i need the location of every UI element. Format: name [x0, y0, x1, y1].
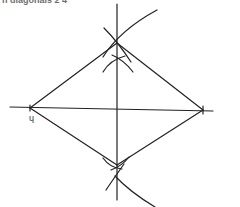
rhombus-construction-diagram	[0, 0, 240, 207]
rhombus-side-bottom-left	[30, 108, 117, 165]
rhombus-side-left-top	[30, 43, 117, 108]
bottom-arc-long	[115, 176, 155, 207]
top-small-arc-right	[112, 55, 133, 72]
rhombus-side-right-bottom	[117, 110, 203, 165]
top-small-arc-left	[103, 56, 125, 72]
top-arc-long	[103, 10, 157, 57]
rhombus-side-top-right	[117, 43, 203, 110]
horizontal-diagonal	[10, 107, 213, 111]
point-mark-label: ɥ	[29, 113, 34, 123]
